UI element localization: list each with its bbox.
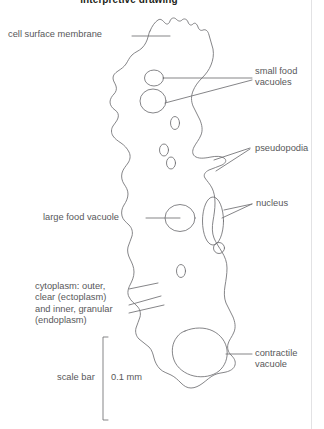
- small-food-vacuole-1-icon: [145, 70, 164, 86]
- small-vacuole-3-icon: [171, 117, 180, 130]
- label-small-food-vacuoles: small food vacuoles: [255, 66, 297, 89]
- small-vacuole-5-icon: [167, 157, 176, 169]
- leader-cytoplasm-1: [129, 283, 158, 289]
- label-scale-bar: scale bar: [57, 372, 95, 383]
- leader-cytoplasm-3: [129, 305, 164, 313]
- interpretive-drawing-figure: interpretive drawing: [0, 0, 324, 429]
- label-nucleus: nucleus: [256, 198, 288, 209]
- label-large-food-vacuole: large food vacuole: [43, 212, 119, 223]
- page-rule: [311, 0, 312, 429]
- label-contractile-vacuole: contractile vacuole: [255, 348, 297, 371]
- scale-bar-bracket-icon: [103, 337, 108, 420]
- small-vacuole-4-icon: [160, 144, 169, 156]
- label-scale-value: 0.1 mm: [111, 372, 142, 383]
- leader-cytoplasm-2: [129, 296, 161, 305]
- leader-pseudopodia-2: [216, 149, 250, 171]
- leader-nucleus-2: [222, 204, 252, 218]
- label-cell-surface-membrane: cell surface membrane: [8, 29, 102, 40]
- label-cytoplasm: cytoplasm: outer, clear (ectoplasm) and …: [35, 281, 113, 327]
- label-pseudopodia: pseudopodia: [255, 143, 308, 154]
- small-vacuole-6-icon: [177, 265, 186, 278]
- contractile-vacuole-icon: [172, 328, 227, 377]
- cell-outline-icon: [110, 18, 235, 388]
- small-food-vacuole-2-icon: [140, 89, 166, 113]
- leader-small-food-vacuoles-2: [165, 80, 252, 103]
- leader-nucleus: [224, 204, 252, 210]
- leader-pseudopodia-1: [214, 148, 250, 160]
